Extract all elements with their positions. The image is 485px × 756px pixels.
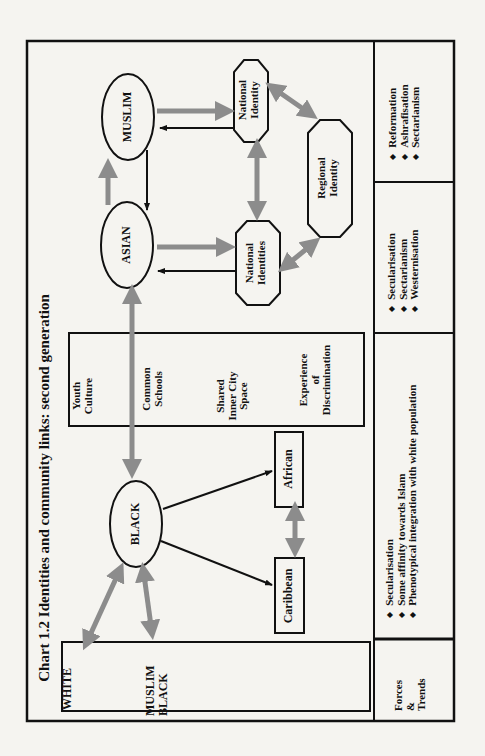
diagram-page: Chart 1.2 Identities and community links…	[0, 0, 485, 756]
white-muslim-black-box	[62, 642, 370, 711]
muslim-label: MUSLIM	[121, 77, 135, 157]
regional-identity-label: Regional Identity	[316, 138, 344, 218]
african-label: African	[282, 434, 296, 504]
chart-title: Chart 1.2 Identities and community links…	[37, 258, 53, 718]
asian-label: ASIAN	[120, 205, 134, 285]
forces-trends-label: Forces & Trends	[393, 651, 435, 711]
arrow-black-white	[86, 574, 118, 644]
arrow-black-to-caribbean	[161, 541, 272, 585]
black-label: BLACK	[129, 484, 143, 564]
factor-youth-culture: Youth Culture	[71, 361, 99, 431]
trends-black-list: Secularisation Some affinity towards Isl…	[384, 348, 426, 618]
national-identity-label: National Identity	[237, 60, 265, 140]
caribbean-label: Caribbean	[282, 561, 296, 631]
factor-shared-inner-city-space: Shared Inner City Space	[215, 361, 257, 431]
arrow-national-identities-regional-identity	[288, 242, 315, 264]
muslim-black-label: MUSLIM BLACK	[144, 644, 172, 716]
factor-experience-of-discrimination: Experience of Discrimination	[298, 335, 340, 425]
arrow-national-identity-regional-identity	[276, 90, 312, 115]
arrow-black-muslim-black	[144, 575, 152, 633]
trends-muslim-list: Reformation Ashrafisation Sectarianism	[387, 60, 429, 160]
factor-common-schools: Common Schools	[141, 354, 169, 424]
arrow-black-to-african	[163, 471, 272, 509]
national-identities-label: National Identities	[244, 223, 272, 303]
trends-asian-list: Secularisation Sectarianism Westernisati…	[386, 202, 428, 312]
white-label: WHITE	[61, 650, 75, 710]
